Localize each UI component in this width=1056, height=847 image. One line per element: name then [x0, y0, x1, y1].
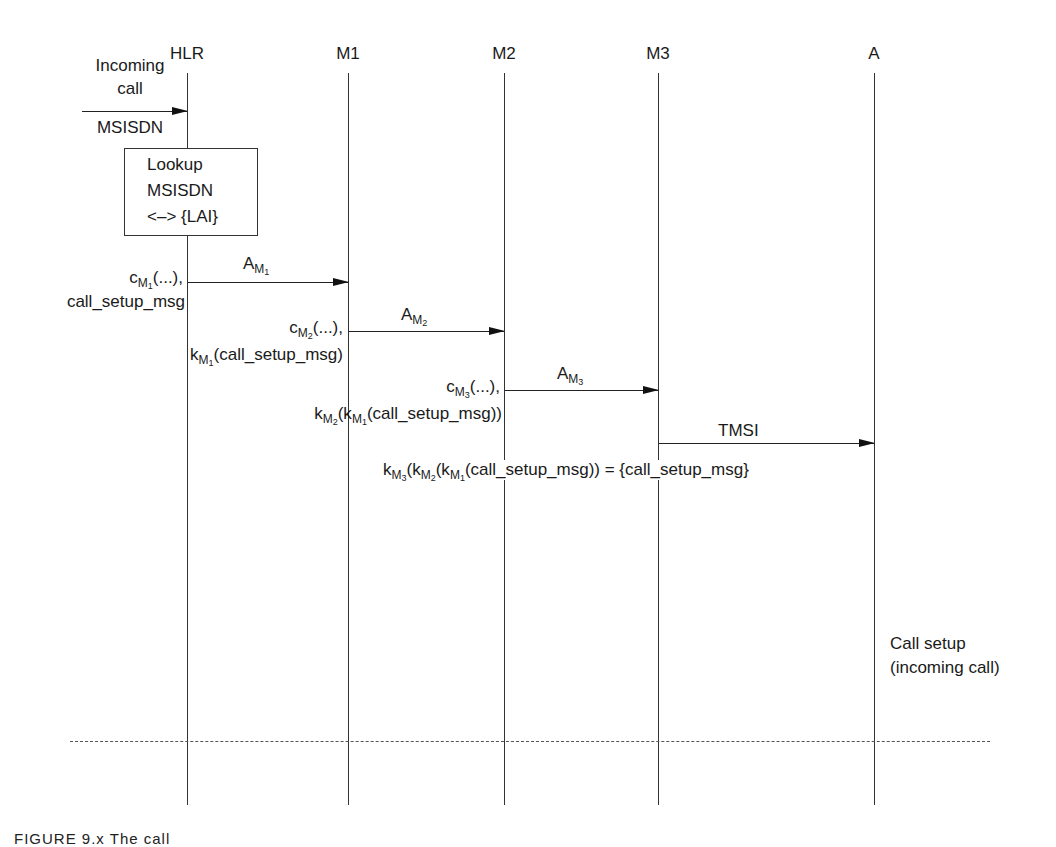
msg1-arrow: [188, 282, 348, 283]
lifeline-header-m1: M1: [336, 44, 360, 64]
lifeline-m2: [504, 73, 505, 805]
msg3-label: AM3: [557, 364, 583, 384]
msg4-arrow: [659, 443, 874, 444]
msg2-param-line2: kM1(call_setup_msg): [140, 345, 343, 365]
lookup-box: Lookup MSISDN <–> {LAI}: [124, 148, 258, 236]
lifeline-header-m2: M2: [492, 44, 516, 64]
msg3-param-line2: kM2(kM1(call_setup_msg)): [240, 404, 502, 424]
msg1-param-line2: call_setup_msg: [20, 292, 185, 312]
phase-label-line2: (incoming call): [890, 658, 1000, 678]
figure-caption: FIGURE 9.x The call: [14, 830, 170, 847]
incoming-label-line3: MSISDN: [80, 118, 180, 138]
msg3-arrow: [505, 390, 658, 391]
msg1-label: AM1: [243, 254, 269, 274]
msg1-param-line1: cM1(...),: [40, 268, 183, 288]
lookup-line2: MSISDN: [147, 181, 213, 201]
decryption-result: kM3(kM2(kM1(call_setup_msg)) = {call_set…: [383, 460, 749, 480]
phase-label-line1: Call setup: [890, 634, 966, 654]
lifeline-m3: [658, 73, 659, 805]
incoming-label-line1: Incoming: [80, 56, 180, 76]
lookup-line1: Lookup: [147, 155, 203, 175]
msg4-label: TMSI: [718, 421, 759, 441]
msg3-param-line1: cM3(...),: [355, 377, 500, 397]
lifeline-m1: [348, 73, 349, 805]
incoming-call-arrow: [82, 111, 187, 112]
incoming-label-line2: call: [80, 79, 180, 99]
msg2-label: AM2: [401, 305, 427, 325]
phase-separator: [70, 741, 990, 742]
msg2-param-line1: cM2(...),: [200, 318, 343, 338]
lifeline-header-m3: M3: [646, 44, 670, 64]
msg2-arrow: [349, 331, 504, 332]
lifeline-header-a: A: [868, 44, 879, 64]
lookup-line3: <–> {LAI}: [147, 207, 218, 227]
